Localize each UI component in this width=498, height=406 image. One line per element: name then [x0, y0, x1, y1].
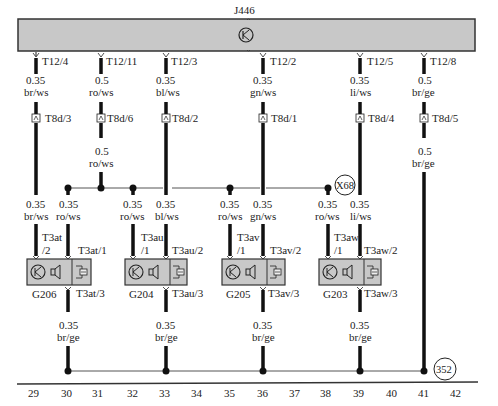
- svg-text:/1: /1: [141, 244, 150, 256]
- svg-text:br/ws: br/ws: [24, 210, 48, 222]
- sensor-label: G206: [32, 288, 57, 300]
- sensor-label: G203: [323, 288, 348, 300]
- wire-gauge: 0.35: [253, 74, 273, 86]
- svg-text:ro/ws: ro/ws: [56, 210, 80, 222]
- wire-gauge: 0.5: [418, 74, 432, 86]
- svg-text:T3av: T3av: [237, 231, 260, 243]
- control-unit-j446-right: [249, 19, 475, 51]
- svg-text:0.35: 0.35: [26, 198, 46, 210]
- connector-label: T8d/2: [172, 112, 198, 124]
- sensor-g203[interactable]: T3aw /1 T3aw/2 G203 T3aw/3: [319, 224, 398, 312]
- svg-text:29: 29: [28, 387, 40, 399]
- svg-text:T3aw/3: T3aw/3: [364, 287, 398, 299]
- svg-text:br/ge: br/ge: [155, 331, 178, 343]
- wire-color: li/ws: [350, 86, 371, 98]
- sensor-label: G204: [129, 288, 154, 300]
- connector-label: T8d/4: [368, 112, 395, 124]
- svg-text:T3au: T3au: [141, 231, 164, 243]
- control-unit-label: J446: [234, 4, 255, 16]
- svg-text:ro/ws: ro/ws: [218, 210, 242, 222]
- sensors: T3at /2 T3at/1 G206 T3at/3 T3au /1 T3au/…: [27, 224, 398, 312]
- svg-text:42: 42: [450, 387, 461, 399]
- svg-text:34: 34: [191, 387, 203, 399]
- connector-label: T8d/1: [271, 112, 297, 124]
- svg-text:0.35: 0.35: [253, 319, 273, 331]
- svg-text:36: 36: [257, 387, 269, 399]
- sensor-g205[interactable]: T3av /1 T3av/2 G205 T3av/3: [222, 224, 301, 312]
- ecu-pin-wires: T12/4 0.35 br/ws T12/11 0.5 ro/ws T12/3 …: [24, 52, 457, 114]
- svg-text:31: 31: [92, 387, 103, 399]
- grid-numbers: 29 30 31 32 33 34 35 36 37 38 39 40 41 4…: [28, 387, 461, 399]
- svg-text:30: 30: [61, 387, 73, 399]
- wire-color: br/ws: [24, 86, 48, 98]
- wire-gauge: 0.5: [95, 74, 109, 86]
- control-unit-j446[interactable]: [18, 19, 248, 51]
- wire-gauge: 0.5: [95, 145, 109, 157]
- svg-text:0.35: 0.35: [156, 198, 176, 210]
- svg-text:0.35: 0.35: [350, 198, 370, 210]
- pin-label: T12/5: [367, 55, 394, 67]
- connector-label: T8d/3: [45, 112, 72, 124]
- svg-text:T3at/1: T3at/1: [78, 244, 107, 256]
- pin-label: T12/3: [171, 55, 198, 67]
- pin-label: T12/8: [430, 55, 457, 67]
- svg-text:bl/ws: bl/ws: [155, 210, 179, 222]
- svg-text:T3au/2: T3au/2: [172, 244, 203, 256]
- connector-icon: [420, 114, 428, 122]
- svg-text:br/ge: br/ge: [252, 331, 275, 343]
- svg-text:T3av/2: T3av/2: [270, 244, 301, 256]
- sensor-label: G205: [226, 288, 251, 300]
- connector-icon: [259, 114, 267, 122]
- svg-text:/2: /2: [42, 244, 51, 256]
- svg-text:T3aw/2: T3aw/2: [364, 244, 398, 256]
- splice-point: [98, 185, 105, 192]
- svg-text:38: 38: [320, 387, 332, 399]
- svg-text:T3at: T3at: [42, 231, 62, 243]
- wire-gauge: 0.5: [418, 145, 432, 157]
- svg-text:40: 40: [386, 387, 398, 399]
- ground-bus: 352: [65, 358, 457, 380]
- wire-gauge: 0.35: [26, 74, 46, 86]
- svg-text:37: 37: [289, 387, 301, 399]
- svg-text:0.35: 0.35: [318, 198, 338, 210]
- svg-text:0.35: 0.35: [253, 198, 273, 210]
- connector-icon: [162, 114, 170, 122]
- svg-text:0.35: 0.35: [59, 198, 79, 210]
- svg-text:0.35: 0.35: [220, 198, 240, 210]
- svg-text:35: 35: [224, 387, 236, 399]
- wiring-diagram: J446 T12/4 0.35 br/ws T12/11 0.5 ro/ws T…: [0, 0, 498, 406]
- wire-color: bl/ws: [156, 86, 180, 98]
- svg-text:0.35: 0.35: [350, 319, 370, 331]
- connector-icon: [356, 114, 364, 122]
- wire-color: ro/ws: [89, 86, 113, 98]
- svg-text:0.35: 0.35: [123, 198, 143, 210]
- connector-label: T8d/6: [107, 112, 134, 124]
- grid-baseline: [17, 382, 478, 384]
- wire-gauge: 0.35: [156, 74, 176, 86]
- svg-text:/1: /1: [334, 244, 343, 256]
- svg-text:gn/ws: gn/ws: [250, 210, 276, 222]
- pin-label: T12/11: [106, 55, 137, 67]
- svg-text:0.35: 0.35: [59, 319, 79, 331]
- svg-text:/1: /1: [237, 244, 246, 256]
- connector-icon: [97, 114, 105, 122]
- connector-label: T8d/5: [432, 112, 459, 124]
- ground-wire-labels: 0.35 br/ge 0.35 br/ge 0.35 br/ge 0.35 br…: [57, 319, 372, 370]
- pin-label: T12/4: [42, 55, 69, 67]
- svg-text:T3aw: T3aw: [334, 231, 359, 243]
- sensor-feed-labels: 0.35 br/ws 0.35 ro/ws 0.35 ro/ws 0.35 bl…: [24, 198, 371, 222]
- svg-text:T3at/3: T3at/3: [76, 287, 105, 299]
- svg-text:ro/ws: ro/ws: [315, 210, 339, 222]
- wire-color: gn/ws: [250, 86, 276, 98]
- svg-text:0.35: 0.35: [156, 319, 176, 331]
- svg-text:41: 41: [418, 387, 429, 399]
- sensor-g206[interactable]: T3at /2 T3at/1 G206 T3at/3: [27, 224, 107, 312]
- wire-color: br/ge: [412, 86, 435, 98]
- svg-text:T3au/3: T3au/3: [172, 287, 204, 299]
- sensor-g204[interactable]: T3au /1 T3au/2 G204 T3au/3: [125, 224, 204, 312]
- wire-color: br/ge: [412, 157, 435, 169]
- svg-text:br/ge: br/ge: [349, 331, 372, 343]
- wire-color: ro/ws: [89, 157, 113, 169]
- t8d-connectors: T8d/3 T8d/6 T8d/2 T8d/1 T8d/4 T8d/5: [32, 112, 459, 124]
- pin-label: T12/2: [270, 55, 296, 67]
